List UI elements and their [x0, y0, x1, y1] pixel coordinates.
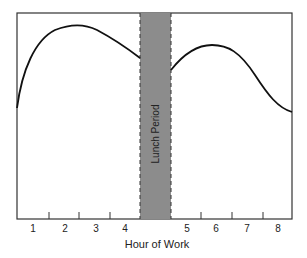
x-tick-label: 2	[62, 223, 68, 234]
lunch-period-label: Lunch Period	[150, 105, 161, 164]
x-tick-label: 8	[275, 223, 281, 234]
x-tick-label: 7	[244, 223, 250, 234]
x-tick-label: 1	[30, 223, 36, 234]
x-tick-label: 3	[93, 223, 99, 234]
x-axis-title: Hour of Work	[125, 238, 190, 250]
x-tick-label: 6	[213, 223, 219, 234]
x-tick-label: 4	[122, 223, 128, 234]
chart: Lunch Period 1 2 3 4 5 6 7 8 Hour of Wor…	[0, 0, 307, 258]
x-tick-label: 5	[184, 223, 190, 234]
afternoon-output-curve	[171, 45, 292, 112]
morning-output-curve	[17, 26, 140, 109]
